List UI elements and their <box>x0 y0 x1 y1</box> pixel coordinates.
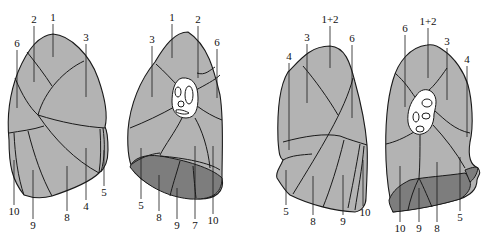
label-4: 4 <box>286 50 292 62</box>
left-lung-lateral-view: 1+2 3 4 6 5 8 9 10 <box>277 13 371 227</box>
label-6: 6 <box>402 22 408 34</box>
label-9: 9 <box>30 219 36 231</box>
label-3: 3 <box>83 31 89 43</box>
label-1: 1 <box>50 11 56 23</box>
label-8: 8 <box>64 211 70 223</box>
label-1-2: 1+2 <box>321 13 338 25</box>
label-1: 1 <box>169 11 175 23</box>
label-5: 5 <box>138 199 144 211</box>
label-6: 6 <box>214 36 220 48</box>
label-10: 10 <box>208 214 220 226</box>
label-7: 7 <box>192 219 198 231</box>
label-5: 5 <box>101 186 107 198</box>
label-2: 2 <box>195 13 201 25</box>
label-3: 3 <box>304 31 310 43</box>
label-9: 9 <box>174 219 180 231</box>
label-2: 2 <box>31 13 37 25</box>
right-lung-lateral-view: 1 2 3 6 10 9 8 4 5 <box>8 11 108 231</box>
label-8: 8 <box>434 222 440 234</box>
label-8: 8 <box>156 211 162 223</box>
lung-segments-diagram: 1 2 3 6 10 9 8 4 5 <box>0 0 487 239</box>
label-10: 10 <box>9 205 21 217</box>
label-5: 5 <box>457 211 463 223</box>
label-6: 6 <box>14 37 20 49</box>
diagram-canvas: 1 2 3 6 10 9 8 4 5 <box>0 0 487 239</box>
label-10: 10 <box>360 206 372 218</box>
label-10: 10 <box>395 222 407 234</box>
right-lung-medial-view: 1 2 3 6 5 8 9 7 10 <box>128 11 223 231</box>
label-4: 4 <box>83 200 89 212</box>
label-3: 3 <box>444 35 450 47</box>
label-3: 3 <box>149 33 155 45</box>
left-lung-medial-view: 1+2 6 3 4 10 9 8 5 <box>386 15 480 234</box>
label-9: 9 <box>340 215 346 227</box>
label-5: 5 <box>283 205 289 217</box>
label-4: 4 <box>464 53 470 65</box>
label-1-2: 1+2 <box>419 15 436 27</box>
label-8: 8 <box>310 215 316 227</box>
label-6: 6 <box>349 32 355 44</box>
label-9: 9 <box>416 222 422 234</box>
